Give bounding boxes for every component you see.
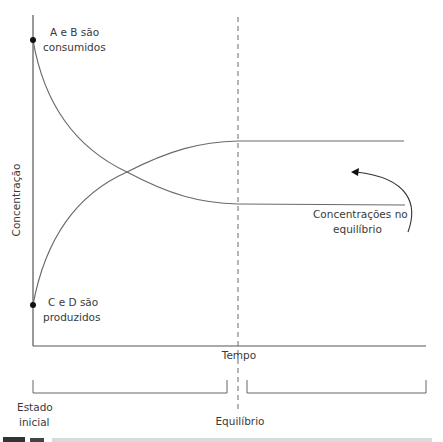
reactants-start-dot xyxy=(30,37,36,43)
reactants-curve xyxy=(33,40,405,205)
equilibrium-bracket xyxy=(247,380,426,393)
x-axis-label: Tempo xyxy=(221,349,256,361)
products-label-line2: produzidos xyxy=(43,311,100,323)
initial-state-bracket xyxy=(33,380,227,393)
equilibrium-diagram: A e B são consumidos C e D são produzido… xyxy=(0,0,443,442)
eq-conc-label-line2: equilíbrio xyxy=(333,223,382,235)
arrow-head-icon xyxy=(351,168,359,176)
y-axis-label: Concentração xyxy=(10,164,22,237)
products-start-dot xyxy=(30,302,36,308)
products-label-line1: C e D são xyxy=(48,296,98,308)
reactants-label-line1: A e B são xyxy=(50,26,99,38)
reactants-label-line2: consumidos xyxy=(43,41,106,53)
equilibrium-label: Equilíbrio xyxy=(215,415,264,427)
figure-caption-clipped xyxy=(3,437,432,442)
eq-conc-label-line1: Concentrações no xyxy=(313,208,408,220)
initial-state-label-line2: inicial xyxy=(19,416,50,428)
initial-state-label-line1: Estado xyxy=(17,401,53,413)
